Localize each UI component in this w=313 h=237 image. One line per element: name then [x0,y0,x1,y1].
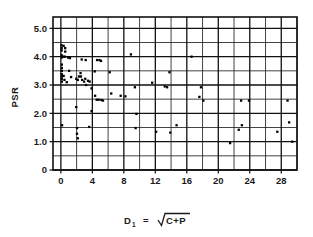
data-point [90,110,92,112]
data-point [134,127,136,129]
x-axis-title-radicand: C+P [166,215,186,226]
data-point [85,59,87,61]
data-point [288,121,290,123]
y-tick-label-4: 4.0 [34,51,47,62]
data-point [67,56,69,58]
data-point [168,71,170,73]
data-point [61,63,63,65]
data-point [61,124,63,126]
data-point [61,47,63,49]
plot-frame [53,17,297,170]
data-point [62,75,64,77]
data-point [151,82,153,84]
data-point [241,124,243,126]
data-point [83,80,85,82]
data-point [190,56,192,58]
data-point [68,70,70,72]
data-point [202,99,204,101]
data-point [77,79,79,81]
data-point [63,79,65,81]
data-point [248,99,250,101]
data-point [198,96,200,98]
data-points-layer [61,44,294,144]
data-point [76,127,78,129]
data-point [120,95,122,97]
data-point [84,78,86,80]
axis-tickmarks [50,28,282,173]
data-point [61,44,63,46]
data-point [81,79,83,81]
figure-container: 0481216202428 01.02.03.04.05.0 PSR D 1 =… [0,0,313,237]
y-axis-title: PSR [9,87,20,108]
y-tick-label-0: 0 [42,164,47,175]
x-axis-tick-labels: 0481216202428 [58,175,286,186]
data-point [88,80,90,82]
data-point [276,131,278,133]
data-point [96,99,98,101]
x-tick-label-24: 24 [244,175,255,186]
data-point [80,75,82,77]
data-point [100,60,102,62]
data-point [76,133,78,135]
x-tick-label-0: 0 [58,175,63,186]
data-point [79,72,81,74]
data-point [164,85,166,87]
data-point [64,50,66,52]
data-point [61,70,63,72]
data-point [96,59,98,61]
x-tick-label-16: 16 [182,175,193,186]
x-axis-title-symbol: D [124,215,131,226]
x-axis-title: D 1 = C+P [124,214,190,229]
data-point [135,113,137,115]
data-point [98,99,100,101]
data-point [155,131,157,133]
x-tick-label-20: 20 [213,175,224,186]
data-point [61,67,63,69]
data-point [61,80,63,82]
data-point [124,95,126,97]
x-tick-label-8: 8 [121,175,126,186]
data-point [75,106,77,108]
data-point [61,78,63,80]
gridlines-minor-horizontal [53,43,297,156]
y-tick-label-3: 3.0 [34,79,47,90]
data-point [64,47,66,49]
data-point [81,58,83,60]
data-point [90,87,92,89]
y-axis-tick-labels: 01.02.03.04.05.0 [34,23,47,176]
x-tick-label-4: 4 [90,175,96,186]
data-point [130,53,132,55]
data-point [77,137,79,139]
data-point [70,76,72,78]
y-tick-label-5: 5.0 [34,23,47,34]
data-point [94,70,96,72]
data-point [94,95,96,97]
data-point [66,81,68,83]
data-point [200,86,202,88]
x-axis-title-subscript: 1 [132,221,136,228]
data-point [229,142,231,144]
scatter-plot: 0481216202428 01.02.03.04.05.0 PSR D 1 =… [0,0,313,237]
data-point [78,75,80,77]
data-point [134,86,136,88]
y-tick-label-2: 2.0 [34,108,47,119]
data-point [240,99,242,101]
data-point [286,99,288,101]
y-tick-label-1: 1.0 [34,136,47,147]
data-point [169,131,171,133]
data-point [102,99,104,101]
data-point [61,49,63,51]
data-point [109,71,111,73]
data-point [85,84,87,86]
data-point [291,141,293,143]
data-point [64,56,66,58]
data-point [175,124,177,126]
data-point [166,86,168,88]
data-point [238,129,240,131]
data-point [69,57,71,59]
data-point [62,45,64,47]
x-axis-title-equals: = [143,215,149,226]
data-point [110,92,112,94]
data-point [88,126,90,128]
x-tick-label-28: 28 [276,175,287,186]
